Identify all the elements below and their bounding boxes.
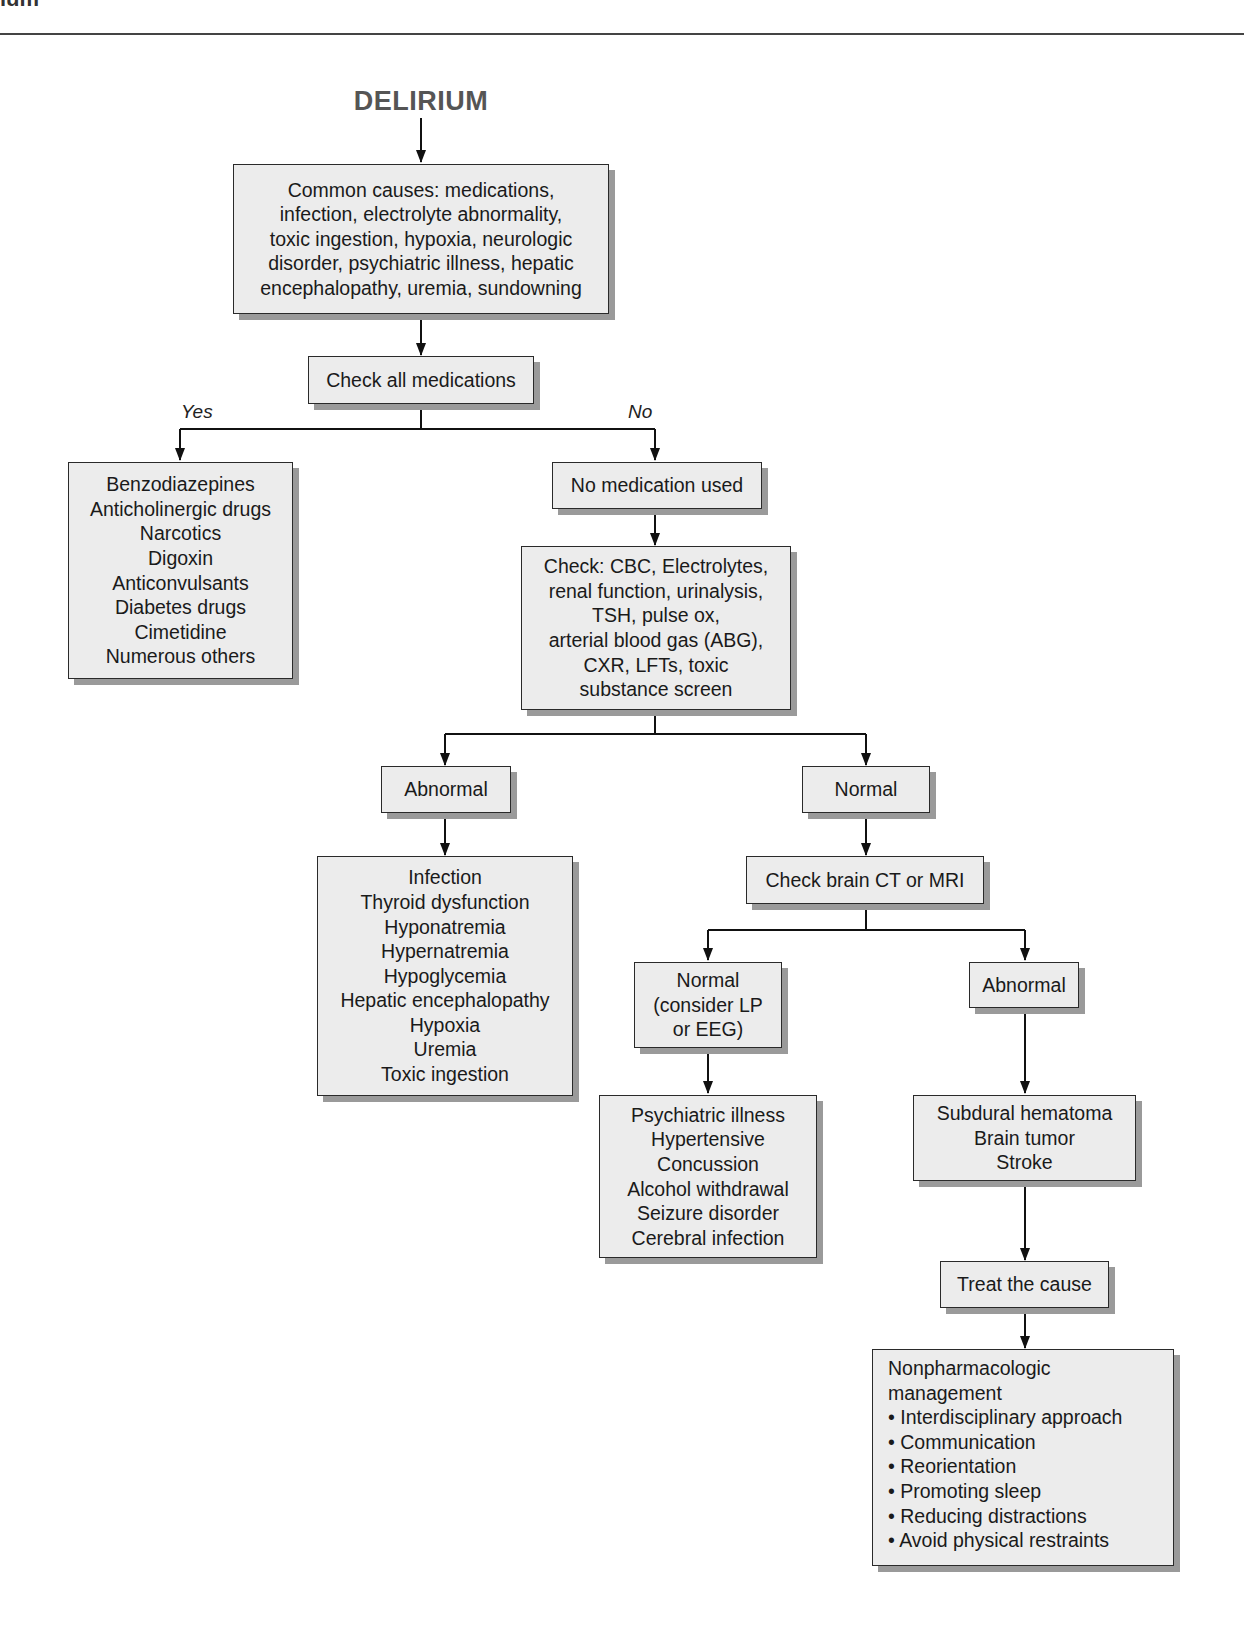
box-text-line: Abnormal [982,973,1065,998]
box-text-line: Check: CBC, Electrolytes, [544,554,768,579]
box-text-line: Anticholinergic drugs [90,497,271,522]
check-all-medications-box: Check all medications [308,356,534,404]
no-medication-used-box: No medication used [552,462,762,509]
box-text-line: Hypernatremia [381,939,509,964]
box-text-line: • Interdisciplinary approach [888,1405,1122,1430]
box-text-line: substance screen [580,677,733,702]
box-text-line: Hyponatremia [384,915,505,940]
box-text-line: encephalopathy, uremia, sundowning [260,276,582,301]
box-text-line: Stroke [996,1150,1052,1175]
box-text-line: • Reducing distractions [888,1504,1087,1529]
box-text-line: disorder, psychiatric illness, hepatic [268,251,574,276]
box-text-line: Diabetes drugs [115,595,246,620]
box-text-line: Concussion [657,1152,759,1177]
box-text-line: Nonpharmacologic [888,1356,1051,1381]
imaging-normal-box: Normal(consider LPor EEG) [634,962,782,1048]
medication-list-box: BenzodiazepinesAnticholinergic drugsNarc… [68,462,293,679]
box-text-line: toxic ingestion, hypoxia, neurologic [270,227,572,252]
check-brain-imaging-box: Check brain CT or MRI [746,856,984,904]
lab-causes-box: InfectionThyroid dysfunctionHyponatremia… [317,856,573,1096]
box-text-line: renal function, urinalysis, [549,579,764,604]
imaging-abnormal-box: Abnormal [969,962,1079,1008]
box-text-line: Benzodiazepines [106,472,255,497]
box-text-line: Anticonvulsants [112,571,249,596]
box-text-line: Common causes: medications, [288,178,555,203]
box-text-line: Digoxin [148,546,213,571]
box-text-line: Normal [835,777,898,802]
no-branch-label: No [628,401,652,423]
box-text-line: Narcotics [140,521,221,546]
common-causes-box: Common causes: medications,infection, el… [233,164,609,314]
labs-normal-box: Normal [802,766,930,813]
box-text-line: Cimetidine [134,620,226,645]
box-text-line: Seizure disorder [637,1201,779,1226]
box-text-line: Toxic ingestion [381,1062,509,1087]
check-labs-box: Check: CBC, Electrolytes,renal function,… [521,546,791,710]
box-text-line: • Reorientation [888,1454,1016,1479]
box-text-line: • Communication [888,1430,1036,1455]
box-text-line: arterial blood gas (ABG), [549,628,764,653]
box-text-line: • Avoid physical restraints [888,1528,1109,1553]
page-header-fragment: ium [0,0,39,12]
box-text-line: Hepatic encephalopathy [340,988,549,1013]
abnormal-imaging-causes-box: Subdural hematomaBrain tumorStroke [913,1095,1136,1181]
box-text-line: • Promoting sleep [888,1479,1041,1504]
box-text-line: Thyroid dysfunction [360,890,529,915]
box-text-line: Brain tumor [974,1126,1075,1151]
box-text-line: Abnormal [404,777,487,802]
box-text-line: Subdural hematoma [937,1101,1113,1126]
box-text-line: Normal [677,968,740,993]
box-text-line: Hypoxia [410,1013,480,1038]
box-text-line: (consider LP [653,993,762,1018]
labs-abnormal-box: Abnormal [381,766,511,813]
box-text-line: Check brain CT or MRI [765,868,964,893]
nonpharmacologic-management-box: Nonpharmacologicmanagement• Interdiscipl… [872,1349,1174,1566]
box-text-line: Alcohol withdrawal [627,1177,789,1202]
box-text-line: No medication used [571,473,743,498]
box-text-line: or EEG) [673,1017,743,1042]
box-text-line: Numerous others [106,644,256,669]
box-text-line: management [888,1381,1002,1406]
box-text-line: Check all medications [326,368,516,393]
header-divider [0,33,1244,35]
box-text-line: Hypoglycemia [384,964,506,989]
box-text-line: Infection [408,865,482,890]
box-text-line: Psychiatric illness [631,1103,785,1128]
yes-branch-label: Yes [181,401,213,423]
flowchart-title: DELIRIUM [321,86,521,117]
box-text-line: Cerebral infection [632,1226,785,1251]
box-text-line: Hypertensive [651,1127,765,1152]
box-text-line: TSH, pulse ox, [592,603,720,628]
box-text-line: infection, electrolyte abnormality, [280,202,563,227]
normal-imaging-causes-box: Psychiatric illnessHypertensiveConcussio… [599,1095,817,1258]
treat-the-cause-box: Treat the cause [940,1261,1109,1308]
box-text-line: Uremia [414,1037,477,1062]
box-text-line: CXR, LFTs, toxic [583,653,728,678]
box-text-line: Treat the cause [957,1272,1092,1297]
